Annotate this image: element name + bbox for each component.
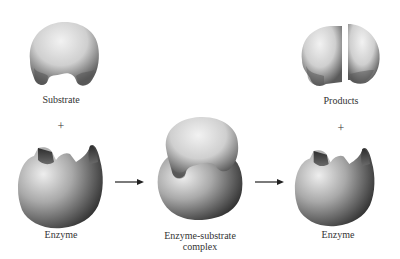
plus-sign-left: + (58, 119, 65, 134)
enzyme-right-node: Enzyme (278, 140, 400, 250)
substrate-node: Substrate (0, 0, 130, 115)
complex-label-line1: Enzyme-substrate (164, 230, 236, 241)
enzyme-right-label: Enzyme (322, 229, 355, 240)
plus-sign-right: + (338, 121, 345, 136)
enzyme-substrate-complex-node: Enzyme-substrate complex (140, 110, 260, 259)
substrate-label: Substrate (42, 94, 79, 105)
products-node: Products (280, 0, 400, 115)
enzyme-left-node: Enzyme (0, 140, 130, 250)
products-label: Products (324, 95, 359, 106)
enzyme-left-label: Enzyme (45, 229, 78, 240)
complex-shape-icon (140, 110, 260, 225)
complex-label-line2: complex (183, 241, 217, 252)
